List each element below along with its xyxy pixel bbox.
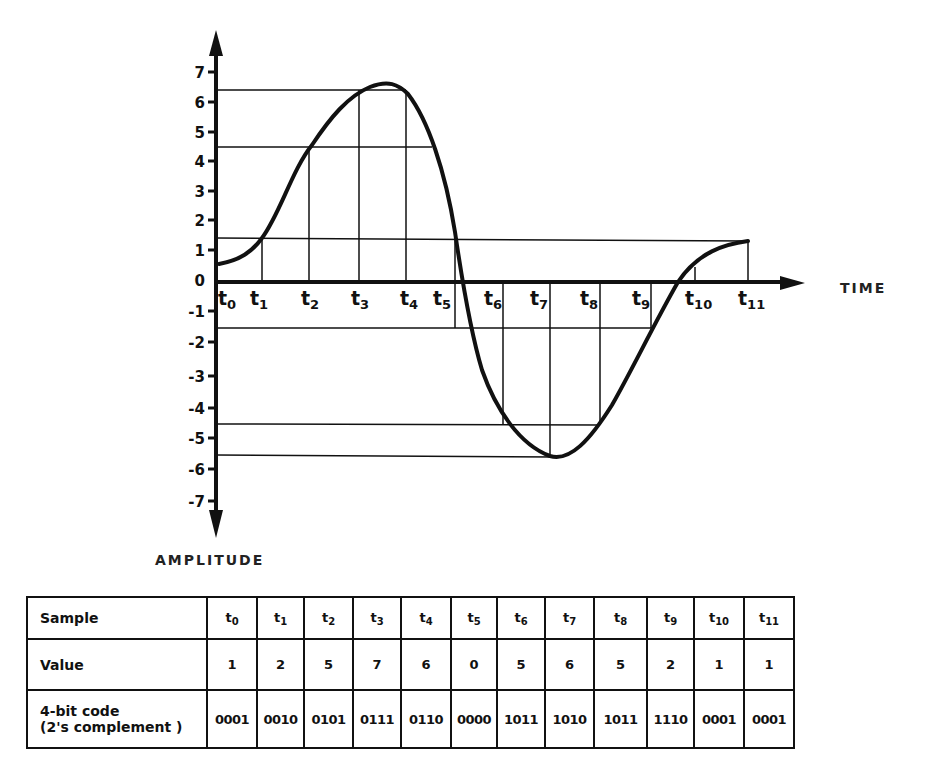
value-cell: 0 [451,639,497,690]
sample-cell: t1 [257,597,304,639]
code-cell: 1011 [594,690,647,748]
svg-text:t0: t0 [218,287,236,312]
svg-text:t10: t10 [685,287,712,312]
time-labels: t0 t1 t2 t3 t4 t5 t6 t7 t8 t9 t10 t11 [218,287,765,312]
value-cell: 5 [497,639,545,690]
svg-text:6: 6 [195,94,205,112]
sample-cell: t7 [545,597,594,639]
sample-cell: t5 [451,597,497,639]
code-row: 4-bit code(2's complement ) 0001 0010 01… [27,690,794,748]
svg-text:t3: t3 [351,287,369,312]
code-cell: 0101 [304,690,353,748]
axes [209,30,805,538]
svg-text:-7: -7 [188,493,205,511]
svg-text:5: 5 [195,124,205,142]
code-cell: 0110 [401,690,451,748]
code-cell: 1110 [647,690,694,748]
svg-text:-1: -1 [188,303,205,321]
svg-text:0: 0 [195,272,205,290]
code-cell: 0001 [694,690,744,748]
code-cell: 1010 [545,690,594,748]
code-cell: 1011 [497,690,545,748]
svg-text:1: 1 [195,242,205,260]
y-tick-labels: 7 6 5 4 3 2 1 0 -1 -2 -3 -4 -5 -6 -7 [188,64,205,511]
svg-text:t11: t11 [738,287,765,312]
value-cell: 2 [257,639,304,690]
svg-text:t6: t6 [484,287,502,312]
value-cell: 1 [694,639,744,690]
value-cell: 5 [594,639,647,690]
sample-row: Sample t0 t1 t2 t3 t4 t5 t6 t7 t8 t9 t10… [27,597,794,639]
code-cell: 0010 [257,690,304,748]
svg-text:7: 7 [195,64,205,82]
sample-cell: t3 [353,597,401,639]
sampling-diagram: 7 6 5 4 3 2 1 0 -1 -2 -3 -4 -5 -6 -7 t0 … [0,0,928,590]
svg-text:t5: t5 [433,287,451,312]
sample-cell: t0 [207,597,257,639]
sample-lines [262,90,748,457]
svg-text:t4: t4 [400,287,418,312]
code-cell: 0000 [451,690,497,748]
svg-text:-4: -4 [188,400,205,418]
value-cell: 1 [207,639,257,690]
sample-cell: t11 [744,597,794,639]
sample-cell: t2 [304,597,353,639]
code-cell: 0001 [207,690,257,748]
y-axis-title: AMPLITUDE [155,552,264,568]
quantization-lines [216,90,748,457]
sample-cell: t6 [497,597,545,639]
row-header-value: Value [27,639,207,690]
value-cell: 1 [744,639,794,690]
code-cell: 0111 [353,690,401,748]
svg-text:4: 4 [195,153,205,171]
svg-text:t8: t8 [580,287,598,312]
svg-text:3: 3 [195,183,205,201]
sample-cell: t8 [594,597,647,639]
svg-text:t7: t7 [530,287,548,312]
value-cell: 5 [304,639,353,690]
x-axis-title: TIME [840,280,886,296]
svg-text:t2: t2 [301,287,319,312]
svg-text:t9: t9 [632,287,650,312]
sample-cell: t9 [647,597,694,639]
value-cell: 2 [647,639,694,690]
value-cell: 7 [353,639,401,690]
value-cell: 6 [401,639,451,690]
svg-text:t1: t1 [250,287,268,312]
sample-cell: t4 [401,597,451,639]
svg-text:-5: -5 [188,430,205,448]
value-cell: 6 [545,639,594,690]
row-header-sample: Sample [27,597,207,639]
sample-code-table: Sample t0 t1 t2 t3 t4 t5 t6 t7 t8 t9 t10… [26,596,795,749]
svg-text:-2: -2 [188,334,205,352]
svg-text:-3: -3 [188,368,205,386]
sample-cell: t10 [694,597,744,639]
row-header-code: 4-bit code(2's complement ) [27,690,207,748]
code-cell: 0001 [744,690,794,748]
value-row: Value 1 2 5 7 6 0 5 6 5 2 1 1 [27,639,794,690]
svg-text:-6: -6 [188,461,205,479]
signal-curve [219,83,748,457]
svg-text:2: 2 [195,212,205,230]
